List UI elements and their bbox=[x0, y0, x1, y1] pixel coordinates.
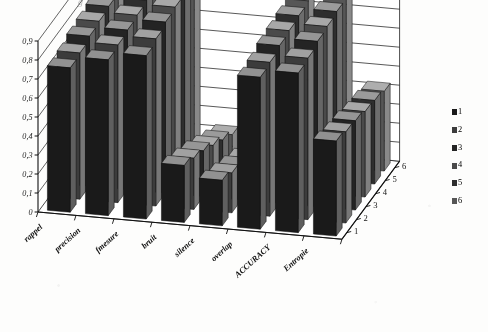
bar-front-c2-d0 bbox=[123, 54, 146, 219]
y-tick-label-6: 0,6 bbox=[22, 94, 33, 103]
y-axis: 00,10,20,30,40,50,60,70,80,9 bbox=[22, 37, 38, 217]
x-tick-6 bbox=[264, 232, 266, 237]
bar-side-c7-d4 bbox=[375, 92, 381, 184]
legend-item-5[interactable]: 5 bbox=[452, 179, 462, 187]
chart-canvas: 00,10,20,30,40,50,60,70,80,9 rappelpreci… bbox=[0, 0, 488, 332]
bar-side-c7-d5 bbox=[384, 83, 390, 171]
bar-side-c2-d0 bbox=[146, 48, 152, 219]
y-tick-label-7: 0,7 bbox=[22, 75, 33, 84]
legend: 123456 bbox=[452, 108, 462, 205]
bar-front-c1-d0 bbox=[85, 58, 108, 216]
x-axis-label-accuracy: ACCURACY bbox=[232, 242, 273, 280]
x-tick-5 bbox=[226, 229, 228, 234]
bar-side-c0-d0 bbox=[70, 60, 76, 212]
depth-axis-label-1: 1 bbox=[354, 226, 358, 236]
y-tick-label-0: 0 bbox=[29, 208, 33, 217]
bar-side-c4-d0 bbox=[222, 172, 228, 226]
legend-label-5: 5 bbox=[458, 179, 462, 187]
bar-side-c6-d0 bbox=[298, 65, 304, 233]
x-tick-7 bbox=[302, 236, 304, 241]
bar-side-c3-d1 bbox=[194, 150, 200, 209]
bar-side-c2-d1 bbox=[156, 31, 162, 206]
legend-swatch-4 bbox=[452, 163, 457, 169]
bar-front-c7-d0 bbox=[313, 139, 336, 236]
legend-swatch-2 bbox=[452, 127, 457, 133]
bar-front-c5-d0 bbox=[237, 75, 260, 229]
bar-front-c0-d0 bbox=[47, 66, 70, 212]
legend-item-6[interactable]: 6 bbox=[452, 197, 462, 205]
legend-swatch-1 bbox=[452, 109, 457, 115]
x-tick-0 bbox=[36, 212, 38, 217]
bar-side-c7-d2 bbox=[355, 113, 361, 210]
bar-front-c4-d0 bbox=[199, 178, 222, 226]
x-axis-label-entropie: Entropie bbox=[281, 246, 310, 274]
legend-swatch-3 bbox=[452, 145, 457, 151]
legend-item-2[interactable]: 2 bbox=[452, 126, 462, 134]
depth-axis-label-2: 2 bbox=[364, 213, 368, 223]
depth-axis-label-3: 3 bbox=[373, 200, 377, 210]
depth-axis-label-6: 6 bbox=[402, 161, 407, 171]
y-tick-label-1: 0,1 bbox=[22, 189, 32, 198]
bar-side-c1-d1 bbox=[118, 37, 124, 203]
legend-label-4: 4 bbox=[458, 161, 462, 169]
x-axis-label-bruit: bruit bbox=[140, 232, 159, 250]
depth-axis-label-4: 4 bbox=[383, 187, 388, 197]
x-tick-8 bbox=[340, 239, 342, 244]
x-tick-3 bbox=[150, 222, 152, 227]
legend-label-6: 6 bbox=[458, 197, 462, 205]
legend-label-2: 2 bbox=[458, 126, 462, 134]
x-axis-label-fmesure: fmesure bbox=[94, 229, 121, 255]
y-tick-label-8: 0,8 bbox=[22, 56, 32, 65]
bar-front-c6-d0 bbox=[275, 71, 298, 233]
bar-side-c2-d5 bbox=[194, 0, 200, 154]
x-tick-1 bbox=[74, 215, 76, 220]
bar-side-c3-d0 bbox=[184, 157, 190, 222]
legend-swatch-5 bbox=[452, 180, 457, 186]
legend-label-1: 1 bbox=[458, 108, 462, 116]
bar-side-c1-d0 bbox=[108, 52, 114, 216]
x-axis-label-silence: silence bbox=[172, 236, 197, 259]
legend-item-4[interactable]: 4 bbox=[452, 161, 462, 169]
bar-front-c3-d0 bbox=[161, 163, 184, 222]
x-tick-2 bbox=[112, 219, 114, 224]
y-tick-label-2: 0,2 bbox=[22, 170, 32, 179]
bar-side-c6-d1 bbox=[308, 50, 314, 220]
bar-side-c5-d1 bbox=[270, 54, 276, 216]
bar-side-c5-d0 bbox=[260, 69, 266, 229]
bar-side-c0-d1 bbox=[80, 45, 86, 199]
y-tick-label-4: 0,4 bbox=[22, 132, 32, 141]
y-tick-label-3: 0,3 bbox=[22, 151, 32, 160]
y-tick-label-5: 0,5 bbox=[22, 113, 32, 122]
x-axis-label-rappel: rappel bbox=[22, 222, 45, 244]
legend-swatch-6 bbox=[452, 198, 457, 204]
x-axis-label-precision: precision bbox=[52, 226, 83, 255]
legend-label-3: 3 bbox=[458, 144, 462, 152]
x-tick-4 bbox=[188, 226, 190, 231]
legend-item-3[interactable]: 3 bbox=[452, 144, 462, 152]
x-axis-label-overlap: overlap bbox=[209, 239, 234, 263]
legend-item-1[interactable]: 1 bbox=[452, 108, 462, 116]
y-tick-label-9: 0,9 bbox=[22, 37, 32, 46]
bar-side-c7-d3 bbox=[365, 103, 371, 197]
depth-axis-label-5: 5 bbox=[392, 174, 396, 184]
bar-side-c7-d1 bbox=[346, 124, 352, 223]
chart-3d-column: 00,10,20,30,40,50,60,70,80,9 rappelpreci… bbox=[0, 0, 488, 332]
bar-side-c7-d0 bbox=[336, 133, 342, 236]
